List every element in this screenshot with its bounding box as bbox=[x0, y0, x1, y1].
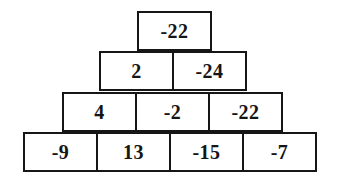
pyramid-row-1: -22 bbox=[137, 11, 212, 51]
pyramid-cell: -15 bbox=[169, 132, 244, 172]
pyramid-cell: -22 bbox=[208, 92, 283, 132]
pyramid-cell: -2 bbox=[135, 92, 210, 132]
pyramid-container: -22 2 -24 4 -2 -22 -9 13 -15 -7 bbox=[0, 0, 344, 180]
pyramid-cell: 2 bbox=[99, 51, 174, 91]
pyramid-row-3: 4 -2 -22 bbox=[62, 92, 283, 132]
pyramid-cell: 13 bbox=[96, 132, 171, 172]
pyramid-row-4: -9 13 -15 -7 bbox=[23, 132, 317, 172]
pyramid-cell: -24 bbox=[172, 51, 247, 91]
pyramid-row-2: 2 -24 bbox=[99, 51, 247, 91]
number-pyramid-figure: -22 2 -24 4 -2 -22 -9 13 -15 -7 bbox=[0, 0, 344, 180]
pyramid-cell: 4 bbox=[62, 92, 137, 132]
pyramid-cell: -22 bbox=[137, 11, 212, 51]
pyramid-cell: -9 bbox=[23, 132, 98, 172]
pyramid-cell: -7 bbox=[242, 132, 317, 172]
